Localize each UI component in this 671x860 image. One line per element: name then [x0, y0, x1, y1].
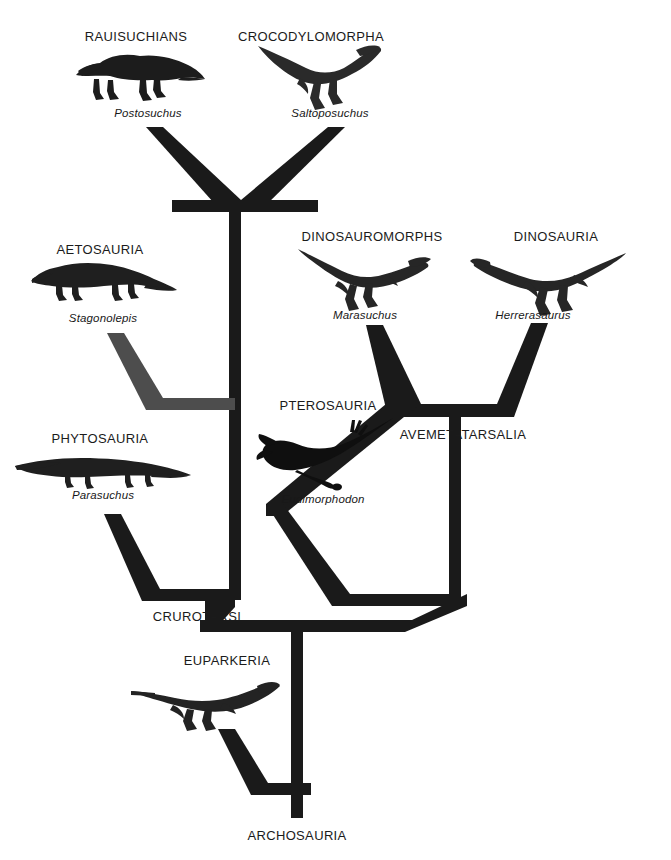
clade-label-avemetatarsalia: AVEMETATARSALIA [400, 428, 526, 442]
branch-group-light [107, 333, 235, 410]
node-bar-crocodylomorph-rauisuchian [172, 200, 318, 212]
genus-label-marasuchus: Marasuchus [333, 309, 397, 322]
genus-label-saltoposuchus: Saltoposuchus [291, 107, 368, 120]
node-bar-aetosauria [146, 398, 235, 410]
clade-label-dinosauromorphs: DINOSAUROMORPHS [301, 230, 442, 244]
clade-label-crocodylomorpha: CROCODYLOMORPHA [238, 30, 384, 44]
cladogram-figure: RAUISUCHIANS CROCODYLOMORPHA AETOSAURIA … [0, 0, 671, 860]
clade-label-rauisuchians: RAUISUCHIANS [85, 30, 187, 44]
genus-label-herrerasaurus: Herrerasaurus [495, 309, 570, 322]
clade-label-crurotarsi: CRUROTARSI [153, 610, 241, 624]
genus-label-stagonolepis: Stagonolepis [69, 312, 137, 325]
clade-label-pterosauria: PTEROSAURIA [279, 399, 376, 413]
branch-phytosauria [104, 514, 160, 601]
branch-crocodylomorpha [241, 127, 345, 212]
clade-label-archosauria: ARCHOSAURIA [247, 829, 346, 843]
genus-label-postosuchus: Postosuchus [114, 107, 182, 120]
clade-label-euparkeria: EUPARKERIA [184, 654, 270, 668]
trunk-archosauria-root [291, 620, 303, 818]
clade-label-dinosauria: DINOSAURIA [514, 230, 598, 244]
clade-label-aetosauria: AETOSAURIA [56, 243, 143, 257]
genus-label-eudimorphodon: Eudimorphodon [281, 493, 364, 506]
branch-pterosauria-lower [266, 504, 350, 606]
clade-label-phytosauria: PHYTOSAURIA [52, 432, 149, 446]
node-bar-pterosauria [332, 594, 457, 606]
branch-dinosauria [497, 323, 548, 417]
genus-label-parasuchus: Parasuchus [72, 489, 134, 502]
cladogram-branches [0, 0, 671, 860]
branch-rauisuchians [146, 127, 241, 212]
